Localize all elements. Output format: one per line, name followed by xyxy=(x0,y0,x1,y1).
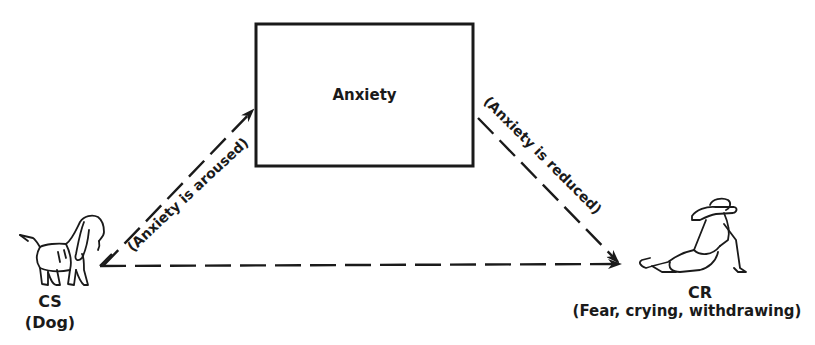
dog-icon xyxy=(20,216,104,285)
anxiety-label: Anxiety xyxy=(255,23,474,167)
arrow-direct xyxy=(100,264,620,266)
cs-label: CS xyxy=(22,292,78,312)
arrow-reduced xyxy=(478,118,618,262)
cr-sublabel: (Fear, crying, withdrawing) xyxy=(572,301,802,321)
cr-label: CR xyxy=(680,283,720,303)
withdrawing-child-icon xyxy=(640,199,746,272)
cs-sublabel: (Dog) xyxy=(18,313,82,333)
